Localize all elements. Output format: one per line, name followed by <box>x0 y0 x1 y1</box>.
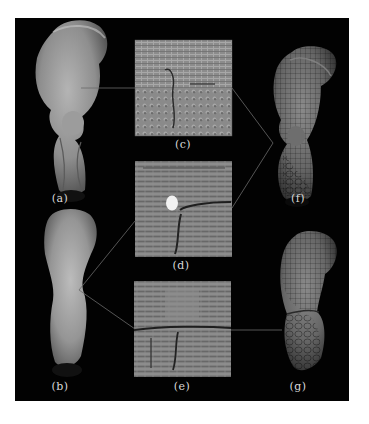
connector-c-f-d <box>232 88 273 208</box>
panel-f-render <box>274 46 337 207</box>
panel-c-patch <box>135 40 232 136</box>
panel-g-render <box>280 231 336 370</box>
label-e: (e) <box>174 380 191 393</box>
figure-panel: (a) (b) (c) (d) (e) (f) (g) <box>15 18 349 401</box>
label-a: (a) <box>52 192 69 205</box>
connector-b-e <box>79 290 135 329</box>
figure-graphics <box>15 18 349 401</box>
panel-a-render <box>36 20 108 202</box>
panel-d-patch <box>135 161 232 257</box>
label-f: (f) <box>291 192 305 205</box>
label-c: (c) <box>175 138 191 151</box>
panel-e-patch <box>134 281 231 377</box>
label-d: (d) <box>172 259 189 272</box>
panel-b-render <box>44 209 97 377</box>
label-g: (g) <box>289 380 306 393</box>
label-b: (b) <box>51 380 68 393</box>
